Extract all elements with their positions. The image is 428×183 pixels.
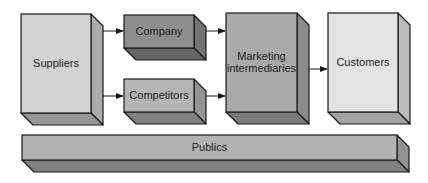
box-customers: Customers: [328, 13, 410, 124]
box-bottom-face: [124, 48, 206, 60]
box-side-face: [297, 13, 309, 124]
boxes: SuppliersCompanyCompetitorsMarketinginte…: [21, 13, 410, 172]
box-marketing-intermediaries: Marketingintermediaries: [226, 13, 309, 124]
box-bottom-face: [328, 112, 410, 124]
box-label-company: Company: [135, 24, 183, 36]
box-suppliers: Suppliers: [21, 14, 103, 125]
box-publics: Publics: [22, 135, 409, 172]
box-bottom-face: [226, 112, 309, 124]
box-bottom-face: [21, 113, 103, 125]
box-label-suppliers: Suppliers: [33, 56, 79, 68]
box-label-publics: Publics: [192, 140, 228, 152]
marketing-environment-diagram: SuppliersCompanyCompetitorsMarketinginte…: [0, 0, 428, 183]
box-company: Company: [124, 15, 206, 60]
box-competitors: Competitors: [124, 79, 206, 124]
box-label-competitors: Competitors: [129, 88, 189, 100]
box-bottom-face: [124, 112, 206, 124]
box-label-customers: Customers: [336, 55, 390, 67]
box-side-face: [91, 14, 103, 125]
box-side-face: [398, 13, 410, 124]
box-bottom-face: [22, 160, 409, 172]
